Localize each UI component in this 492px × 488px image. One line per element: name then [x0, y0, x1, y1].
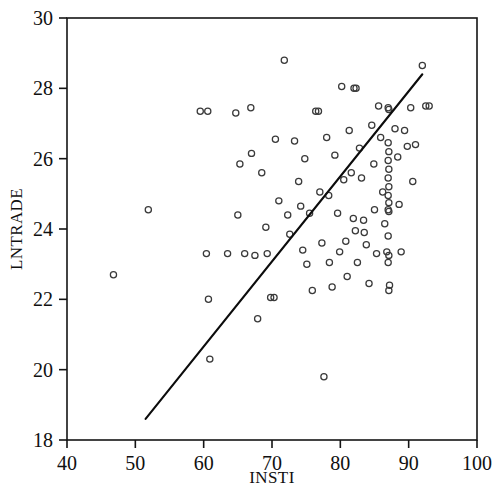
data-point — [317, 189, 323, 195]
data-point — [386, 200, 392, 206]
data-point — [272, 136, 278, 142]
data-point — [302, 156, 308, 162]
data-point — [350, 215, 356, 221]
data-point — [410, 178, 416, 184]
data-point — [401, 127, 407, 133]
data-point — [382, 221, 388, 227]
data-point — [386, 149, 392, 155]
data-point — [363, 242, 369, 248]
data-point — [339, 83, 345, 89]
data-point — [233, 110, 239, 116]
x-tick-label: 90 — [399, 452, 419, 474]
data-point — [335, 210, 341, 216]
data-point — [304, 261, 310, 267]
data-point — [404, 143, 410, 149]
data-point — [110, 272, 116, 278]
data-point — [385, 157, 391, 163]
x-tick-label: 100 — [462, 452, 492, 474]
data-point — [371, 207, 377, 213]
data-point — [371, 161, 377, 167]
data-point — [326, 259, 332, 265]
data-point — [360, 217, 366, 223]
data-point — [235, 212, 241, 218]
data-point — [346, 127, 352, 133]
data-point — [205, 108, 211, 114]
data-point — [419, 62, 425, 68]
data-point — [309, 287, 315, 293]
data-point — [205, 296, 211, 302]
data-point — [300, 247, 306, 253]
chart-canvas: 405060708090100 18202224262830 INSTI LNT… — [0, 0, 492, 488]
data-point — [237, 161, 243, 167]
data-point — [408, 105, 414, 111]
y-tick-label: 30 — [33, 7, 53, 29]
data-point — [341, 177, 347, 183]
data-point — [385, 233, 391, 239]
data-point — [259, 170, 265, 176]
data-point — [197, 108, 203, 114]
data-point — [386, 166, 392, 172]
y-axis-ticks — [59, 18, 67, 440]
data-point — [358, 175, 364, 181]
data-point — [337, 249, 343, 255]
data-point — [324, 134, 330, 140]
data-point — [296, 178, 302, 184]
data-point — [329, 284, 335, 290]
x-axis-ticks — [67, 440, 477, 448]
y-tick-label: 28 — [33, 77, 53, 99]
data-point — [264, 251, 270, 257]
y-axis-title: LNTRADE — [7, 188, 26, 270]
y-tick-label: 26 — [33, 148, 53, 170]
data-point — [203, 251, 209, 257]
y-tick-label: 18 — [33, 429, 53, 451]
data-point — [224, 251, 230, 257]
x-tick-label: 60 — [194, 452, 214, 474]
data-point — [344, 273, 350, 279]
data-point — [285, 212, 291, 218]
data-point — [354, 259, 360, 265]
data-point — [398, 249, 404, 255]
data-point — [291, 138, 297, 144]
data-point — [385, 259, 391, 265]
data-point — [252, 252, 258, 258]
data-point — [369, 122, 375, 128]
data-point — [378, 134, 384, 140]
data-point — [412, 142, 418, 148]
x-tick-label: 40 — [57, 452, 77, 474]
data-point — [276, 198, 282, 204]
x-tick-label: 80 — [330, 452, 350, 474]
data-point — [348, 170, 354, 176]
data-point — [385, 192, 391, 198]
data-point — [298, 203, 304, 209]
regression-line — [146, 74, 423, 419]
y-tick-label: 20 — [33, 359, 53, 381]
data-point — [248, 150, 254, 156]
data-point — [361, 229, 367, 235]
data-point — [376, 103, 382, 109]
y-axis-tick-labels: 18202224262830 — [33, 7, 53, 451]
data-point — [392, 126, 398, 132]
data-point — [343, 238, 349, 244]
x-axis-title: INSTI — [249, 468, 294, 487]
data-point — [366, 280, 372, 286]
data-point — [385, 140, 391, 146]
data-point — [255, 316, 261, 322]
y-tick-label: 24 — [33, 218, 53, 240]
data-point — [352, 228, 358, 234]
data-point — [319, 240, 325, 246]
data-point — [373, 251, 379, 257]
scatter-points — [110, 57, 432, 380]
data-point — [263, 224, 269, 230]
data-point — [385, 175, 391, 181]
data-point — [386, 184, 392, 190]
data-point — [395, 154, 401, 160]
data-point — [321, 374, 327, 380]
data-point — [207, 356, 213, 362]
data-point — [396, 201, 402, 207]
data-point — [281, 57, 287, 63]
scatter-plot-figure: 405060708090100 18202224262830 INSTI LNT… — [0, 0, 492, 488]
data-point — [145, 207, 151, 213]
y-tick-label: 22 — [33, 288, 53, 310]
data-point — [242, 251, 248, 257]
data-point — [332, 152, 338, 158]
